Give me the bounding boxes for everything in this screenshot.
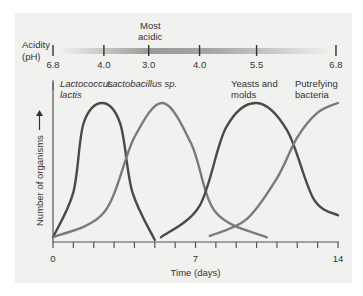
curve-lactococcus-lactis xyxy=(53,103,155,240)
ph-tick-label: 6.8 xyxy=(46,59,59,70)
ph-label-line2: (pH) xyxy=(22,51,40,62)
y-axis-label: Number of organisms xyxy=(34,135,45,226)
x-tick-label: 7 xyxy=(193,253,198,264)
series-label-line2: molds xyxy=(231,89,257,100)
axes: 0714 Time (days) Number of organisms xyxy=(34,82,343,278)
ph-tick-label: 4.0 xyxy=(193,59,206,70)
x-ticks: 0714 xyxy=(50,242,343,264)
series-label-line2: bacteria xyxy=(295,89,330,100)
ph-tick-label: 3.0 xyxy=(142,59,155,70)
series-label: Putrefying xyxy=(295,78,338,89)
ph-tick-label: 6.8 xyxy=(329,59,342,70)
y-axis-label-group: Number of organisms xyxy=(34,110,45,226)
curves xyxy=(53,103,338,240)
x-axis-label: Time (days) xyxy=(171,267,221,278)
arrow-up-icon xyxy=(36,110,43,116)
ph-tick-label: 5.5 xyxy=(250,59,263,70)
series-label: Lactococcus xyxy=(60,78,113,89)
growth-chart: Acidity (pH) Most acidic 6.84.03.04.05.5… xyxy=(0,0,363,296)
curve-lactobacillus-sp xyxy=(53,103,267,237)
ph-label-line1: Acidity xyxy=(22,39,50,50)
series-label: Yeasts and xyxy=(231,78,278,89)
ph-scale: Acidity (pH) Most acidic 6.84.03.04.05.5… xyxy=(22,20,343,70)
series-labels: LactococcuslactisLactobacillus sp.Yeasts… xyxy=(53,78,338,100)
series-label: Lactobacillus sp. xyxy=(107,78,177,89)
ph-gradient-bar xyxy=(60,48,332,54)
most-acidic-line2: acidic xyxy=(138,31,163,42)
most-acidic-line1: Most xyxy=(140,20,161,31)
series-label-line2: lactis xyxy=(60,89,82,100)
x-tick-label: 14 xyxy=(333,253,344,264)
ph-tick-label: 4.0 xyxy=(97,59,110,70)
x-tick-label: 0 xyxy=(50,253,55,264)
